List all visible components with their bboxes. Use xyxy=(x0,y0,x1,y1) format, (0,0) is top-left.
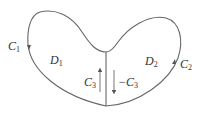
arrow-c1-icon xyxy=(27,45,31,50)
label-c3: C3 xyxy=(84,76,96,90)
label-d1: D1 xyxy=(50,54,63,68)
curve-c1 xyxy=(28,11,106,106)
curve-c2 xyxy=(106,17,181,106)
label-neg-c3: −C3 xyxy=(118,76,138,90)
arrow-c2-icon xyxy=(172,59,176,64)
label-c2: C2 xyxy=(180,58,192,72)
label-d2: D2 xyxy=(145,55,158,69)
region-diagram xyxy=(0,0,202,114)
label-c1: C1 xyxy=(8,40,20,54)
